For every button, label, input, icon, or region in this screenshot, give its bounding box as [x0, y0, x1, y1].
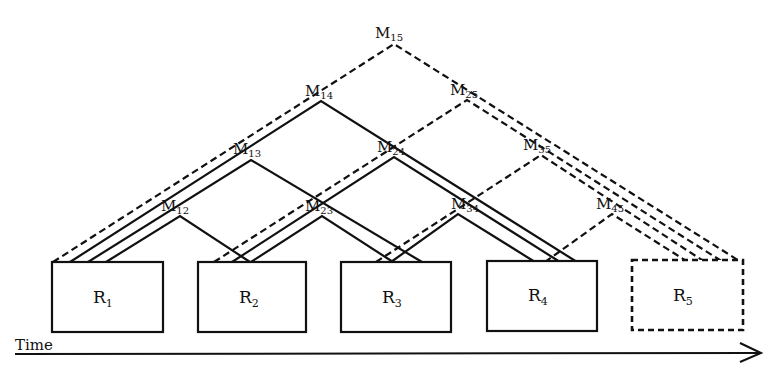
msg-label-m25: M25 [450, 81, 478, 100]
msg-label-m24: M24 [377, 138, 405, 157]
time-axis [15, 353, 760, 354]
path-m23 [251, 216, 393, 262]
time-axis-label: Time [15, 336, 53, 354]
path-m12 [106, 216, 250, 262]
message-diagram: R1 R2 R3 R4 R5 M15 M14 M25 M13 M24 M35 M… [0, 0, 779, 380]
msg-label-m45: M45 [596, 195, 624, 214]
msg-label-m15: M15 [375, 24, 403, 43]
msg-label-m14: M14 [305, 82, 333, 101]
path-m35 [376, 155, 705, 262]
msg-label-m12: M12 [161, 197, 189, 216]
